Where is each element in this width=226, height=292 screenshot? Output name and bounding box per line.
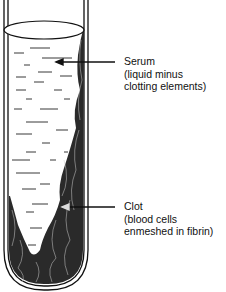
clot-desc-line1: (blood cells — [124, 213, 213, 226]
clot-title: Clot — [124, 200, 213, 213]
serum-title: Serum — [124, 55, 206, 68]
serum-label: Serum (liquid minus clotting elements) — [124, 55, 206, 93]
serum-surface — [4, 21, 84, 39]
clot-desc-line2: enmeshed in fibrin) — [124, 225, 213, 238]
clot-mass — [9, 26, 84, 284]
serum-desc-line2: clotting elements) — [124, 80, 206, 93]
test-tube-illustration — [0, 0, 226, 292]
serum-desc-line1: (liquid minus — [124, 68, 206, 81]
clot-label: Clot (blood cells enmeshed in fibrin) — [124, 200, 213, 238]
